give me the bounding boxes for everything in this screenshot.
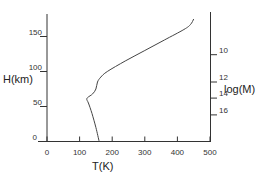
right-ticks: 10121416	[210, 46, 228, 115]
y-axis-title: H(km)	[3, 73, 33, 85]
right-tick-label: 10	[219, 46, 228, 55]
x-tick-label: 500	[203, 148, 217, 157]
y-tick-label: 150	[29, 28, 43, 37]
x-tick-label: 400	[171, 148, 185, 157]
x-tick-label: 0	[45, 148, 50, 157]
right-axis-title: log(M)	[224, 83, 255, 95]
temperature-curve	[87, 19, 194, 142]
right-tick-label: 12	[219, 73, 228, 82]
x-tick-label: 300	[138, 148, 152, 157]
y-tick-label: 0	[33, 133, 38, 142]
x-axis-title: T(K)	[92, 160, 113, 172]
x-tick-label: 100	[73, 148, 87, 157]
x-ticks: 0100200300400500	[45, 137, 217, 157]
y-tick-label: 50	[33, 98, 42, 107]
x-tick-label: 200	[106, 148, 120, 157]
temperature-height-chart: 0100200300400500 050100150 10121416 H(km…	[0, 0, 263, 178]
right-tick-label: 16	[219, 106, 228, 115]
y-tick-label: 100	[29, 63, 43, 72]
